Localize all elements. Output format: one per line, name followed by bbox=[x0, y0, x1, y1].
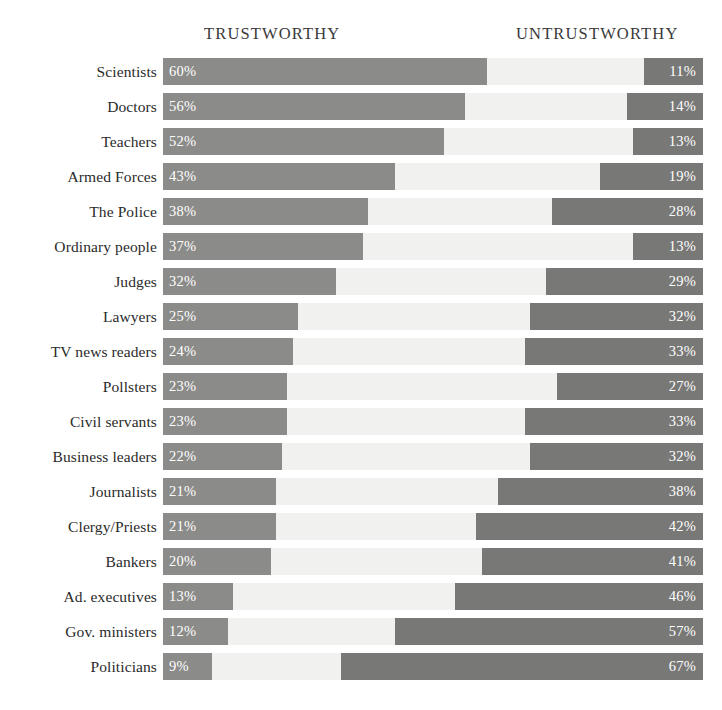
chart-row: Judges32%29% bbox=[0, 268, 722, 295]
untrustworthy-value: 14% bbox=[669, 93, 696, 120]
trustworthy-value: 23% bbox=[169, 408, 196, 435]
trustworthy-value: 21% bbox=[169, 513, 196, 540]
trustworthy-value: 56% bbox=[169, 93, 196, 120]
trustworthy-value: 9% bbox=[169, 653, 189, 680]
untrustworthy-value: 41% bbox=[669, 548, 696, 575]
untrustworthy-bar: 11% bbox=[644, 58, 703, 85]
row-bar-track: 24%33% bbox=[163, 338, 703, 365]
untrustworthy-value: 19% bbox=[669, 163, 696, 190]
row-category-label: Ordinary people bbox=[0, 233, 157, 260]
untrustworthy-bar: 57% bbox=[395, 618, 703, 645]
row-bar-track: 38%28% bbox=[163, 198, 703, 225]
row-bar-track: 13%46% bbox=[163, 583, 703, 610]
untrustworthy-value: 13% bbox=[669, 128, 696, 155]
row-bar-track: 43%19% bbox=[163, 163, 703, 190]
trustworthy-bar: 21% bbox=[163, 478, 276, 505]
trustworthy-bar: 52% bbox=[163, 128, 444, 155]
trustworthy-value: 13% bbox=[169, 583, 196, 610]
trustworthy-value: 32% bbox=[169, 268, 196, 295]
untrustworthy-value: 27% bbox=[669, 373, 696, 400]
trustworthy-bar: 25% bbox=[163, 303, 298, 330]
chart-row: Pollsters23%27% bbox=[0, 373, 722, 400]
trustworthy-value: 43% bbox=[169, 163, 196, 190]
trustworthy-bar: 56% bbox=[163, 93, 465, 120]
row-bar-track: 20%41% bbox=[163, 548, 703, 575]
row-category-label: TV news readers bbox=[0, 338, 157, 365]
untrustworthy-bar: 29% bbox=[546, 268, 703, 295]
trust-professions-chart: TRUSTWORTHY UNTRUSTWORTHY Scientists60%1… bbox=[0, 0, 722, 710]
row-bar-track: 23%27% bbox=[163, 373, 703, 400]
untrustworthy-bar: 42% bbox=[476, 513, 703, 540]
trustworthy-value: 22% bbox=[169, 443, 196, 470]
untrustworthy-value: 33% bbox=[669, 338, 696, 365]
untrustworthy-bar: 13% bbox=[633, 128, 703, 155]
legend-trustworthy-label: TRUSTWORTHY bbox=[204, 24, 340, 44]
row-category-label: Judges bbox=[0, 268, 157, 295]
row-bar-track: 37%13% bbox=[163, 233, 703, 260]
untrustworthy-bar: 32% bbox=[530, 443, 703, 470]
row-category-label: Gov. ministers bbox=[0, 618, 157, 645]
untrustworthy-value: 33% bbox=[669, 408, 696, 435]
chart-row: Scientists60%11% bbox=[0, 58, 722, 85]
row-category-label: Armed Forces bbox=[0, 163, 157, 190]
untrustworthy-bar: 33% bbox=[525, 338, 703, 365]
trustworthy-bar: 60% bbox=[163, 58, 487, 85]
trustworthy-value: 24% bbox=[169, 338, 196, 365]
trustworthy-value: 12% bbox=[169, 618, 196, 645]
untrustworthy-bar: 38% bbox=[498, 478, 703, 505]
row-bar-track: 21%42% bbox=[163, 513, 703, 540]
trustworthy-bar: 9% bbox=[163, 653, 212, 680]
untrustworthy-value: 32% bbox=[669, 443, 696, 470]
row-bar-track: 12%57% bbox=[163, 618, 703, 645]
untrustworthy-value: 32% bbox=[669, 303, 696, 330]
untrustworthy-bar: 14% bbox=[627, 93, 703, 120]
untrustworthy-value: 38% bbox=[669, 478, 696, 505]
trustworthy-bar: 12% bbox=[163, 618, 228, 645]
chart-row: Politicians9%67% bbox=[0, 653, 722, 680]
trustworthy-bar: 24% bbox=[163, 338, 293, 365]
row-category-label: Lawyers bbox=[0, 303, 157, 330]
trustworthy-value: 20% bbox=[169, 548, 196, 575]
row-category-label: The Police bbox=[0, 198, 157, 225]
trustworthy-value: 21% bbox=[169, 478, 196, 505]
row-bar-track: 52%13% bbox=[163, 128, 703, 155]
chart-row: Teachers52%13% bbox=[0, 128, 722, 155]
untrustworthy-bar: 27% bbox=[557, 373, 703, 400]
row-category-label: Scientists bbox=[0, 58, 157, 85]
trustworthy-bar: 43% bbox=[163, 163, 395, 190]
trustworthy-value: 37% bbox=[169, 233, 196, 260]
row-bar-track: 23%33% bbox=[163, 408, 703, 435]
row-category-label: Business leaders bbox=[0, 443, 157, 470]
row-bar-track: 56%14% bbox=[163, 93, 703, 120]
trustworthy-value: 23% bbox=[169, 373, 196, 400]
legend-untrustworthy-label: UNTRUSTWORTHY bbox=[516, 24, 678, 44]
trustworthy-bar: 23% bbox=[163, 408, 287, 435]
chart-row: Journalists21%38% bbox=[0, 478, 722, 505]
row-bar-track: 22%32% bbox=[163, 443, 703, 470]
row-category-label: Civil servants bbox=[0, 408, 157, 435]
untrustworthy-value: 42% bbox=[669, 513, 696, 540]
row-bar-track: 25%32% bbox=[163, 303, 703, 330]
untrustworthy-value: 13% bbox=[669, 233, 696, 260]
chart-row: Lawyers25%32% bbox=[0, 303, 722, 330]
row-category-label: Clergy/Priests bbox=[0, 513, 157, 540]
row-bar-track: 60%11% bbox=[163, 58, 703, 85]
untrustworthy-bar: 19% bbox=[600, 163, 703, 190]
chart-rows: Scientists60%11%Doctors56%14%Teachers52%… bbox=[0, 58, 722, 688]
row-category-label: Bankers bbox=[0, 548, 157, 575]
chart-row: Ordinary people37%13% bbox=[0, 233, 722, 260]
chart-row: Armed Forces43%19% bbox=[0, 163, 722, 190]
trustworthy-value: 60% bbox=[169, 58, 196, 85]
row-category-label: Doctors bbox=[0, 93, 157, 120]
trustworthy-bar: 22% bbox=[163, 443, 282, 470]
trustworthy-value: 25% bbox=[169, 303, 196, 330]
untrustworthy-value: 67% bbox=[669, 653, 696, 680]
row-category-label: Pollsters bbox=[0, 373, 157, 400]
chart-row: Clergy/Priests21%42% bbox=[0, 513, 722, 540]
row-bar-track: 9%67% bbox=[163, 653, 703, 680]
untrustworthy-value: 28% bbox=[669, 198, 696, 225]
untrustworthy-value: 46% bbox=[669, 583, 696, 610]
trustworthy-bar: 38% bbox=[163, 198, 368, 225]
row-bar-track: 32%29% bbox=[163, 268, 703, 295]
untrustworthy-bar: 41% bbox=[482, 548, 703, 575]
